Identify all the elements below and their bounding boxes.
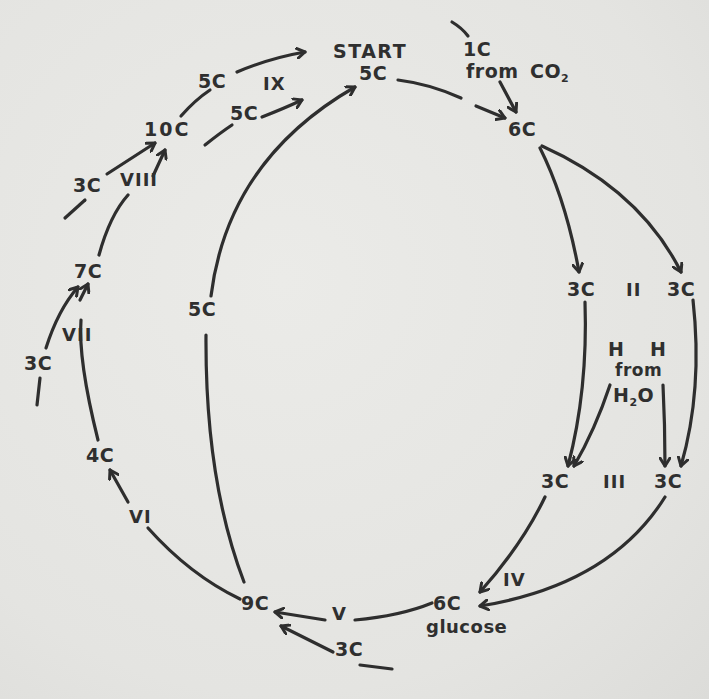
arrow-9c-to-5c-inner xyxy=(206,335,244,582)
node-5c-inner: 5C xyxy=(188,300,216,319)
node-5c-second: 5C xyxy=(230,104,258,123)
h2o-o: O xyxy=(638,384,655,406)
arrow-h-left xyxy=(574,385,610,466)
co2-subscript: 2 xyxy=(561,72,569,85)
node-3c-upper: 3C xyxy=(73,176,101,195)
line-3c-bottom-tail xyxy=(360,665,392,669)
node-1c-co2: 1C xyxy=(463,40,491,59)
node-9c: 9C xyxy=(241,594,269,613)
node-7c: 7C xyxy=(74,262,102,281)
co2-source: CO2 xyxy=(530,62,569,84)
arrow-start-to-6c-head xyxy=(476,106,505,118)
node-3c-bottom: 3C xyxy=(335,640,363,659)
node-3c-left-a: 3C xyxy=(567,280,595,299)
co2-from-text: from xyxy=(466,62,519,81)
arrow-10c-to-5c-second xyxy=(205,125,232,145)
arrow-3c-right-reduction xyxy=(681,300,696,466)
diagram-arrows xyxy=(0,0,709,699)
node-3c-left-b: 3C xyxy=(541,472,569,491)
h2o-subscript: 2 xyxy=(629,396,637,409)
h-from-text: from xyxy=(615,362,662,379)
node-3c-right-a: 3C xyxy=(667,280,695,299)
arrow-3c-left-reduction xyxy=(568,302,585,466)
arrow-7c-up xyxy=(99,195,128,255)
arrow-glucose-to-9c xyxy=(355,603,432,620)
node-6c-glucose: 6C xyxy=(433,594,461,613)
node-6c-top: 6C xyxy=(508,120,536,139)
diagram-canvas: START 5C 1C from CO2 6C 3C II 3C H H fro… xyxy=(0,0,709,699)
step-vi: VI xyxy=(129,508,152,526)
node-5c-top: 5C xyxy=(198,72,226,91)
step-vii: VII xyxy=(62,326,92,344)
node-5c-start: 5C xyxy=(359,64,387,83)
node-4c: 4C xyxy=(86,446,114,465)
h2o-h: H xyxy=(613,384,629,406)
step-ix: IX xyxy=(263,75,286,93)
arrow-vii-to-7c xyxy=(80,284,88,300)
arrow-start-to-6c xyxy=(398,80,461,98)
h-right: H xyxy=(650,340,666,359)
arrow-9c-to-vi xyxy=(148,528,240,599)
arrow-co2-entry xyxy=(452,22,468,36)
co2-formula: CO xyxy=(530,60,561,82)
arrow-6c-to-3c-left xyxy=(540,148,579,272)
step-iii: III xyxy=(603,473,626,491)
h2o-formula: H2O xyxy=(613,386,654,408)
step-ii: II xyxy=(626,281,641,299)
step-viii: VIII xyxy=(120,171,158,189)
line-3c-upper-tail xyxy=(65,200,85,218)
node-3c-right-b: 3C xyxy=(654,472,682,491)
step-iv: IV xyxy=(503,571,526,589)
line-3c-side-tail xyxy=(37,378,40,405)
arrow-3c-bottom-to-9c xyxy=(281,626,333,652)
arrow-10c-to-5c-top xyxy=(181,90,210,116)
step-v: V xyxy=(332,605,347,623)
arrow-5c-second-to-start xyxy=(262,100,302,117)
arrow-h-right xyxy=(663,385,665,466)
node-10c: 10C xyxy=(144,120,190,139)
start-label: START xyxy=(333,42,407,61)
arrow-v-to-9c xyxy=(275,612,325,620)
arrow-vi-to-4c xyxy=(110,470,128,502)
glucose-label: glucose xyxy=(426,618,507,636)
h-left: H xyxy=(608,340,624,359)
arrow-1c-to-6c xyxy=(500,82,516,112)
arrow-5c-top-to-start xyxy=(237,52,305,72)
node-3c-side: 3C xyxy=(24,354,52,373)
